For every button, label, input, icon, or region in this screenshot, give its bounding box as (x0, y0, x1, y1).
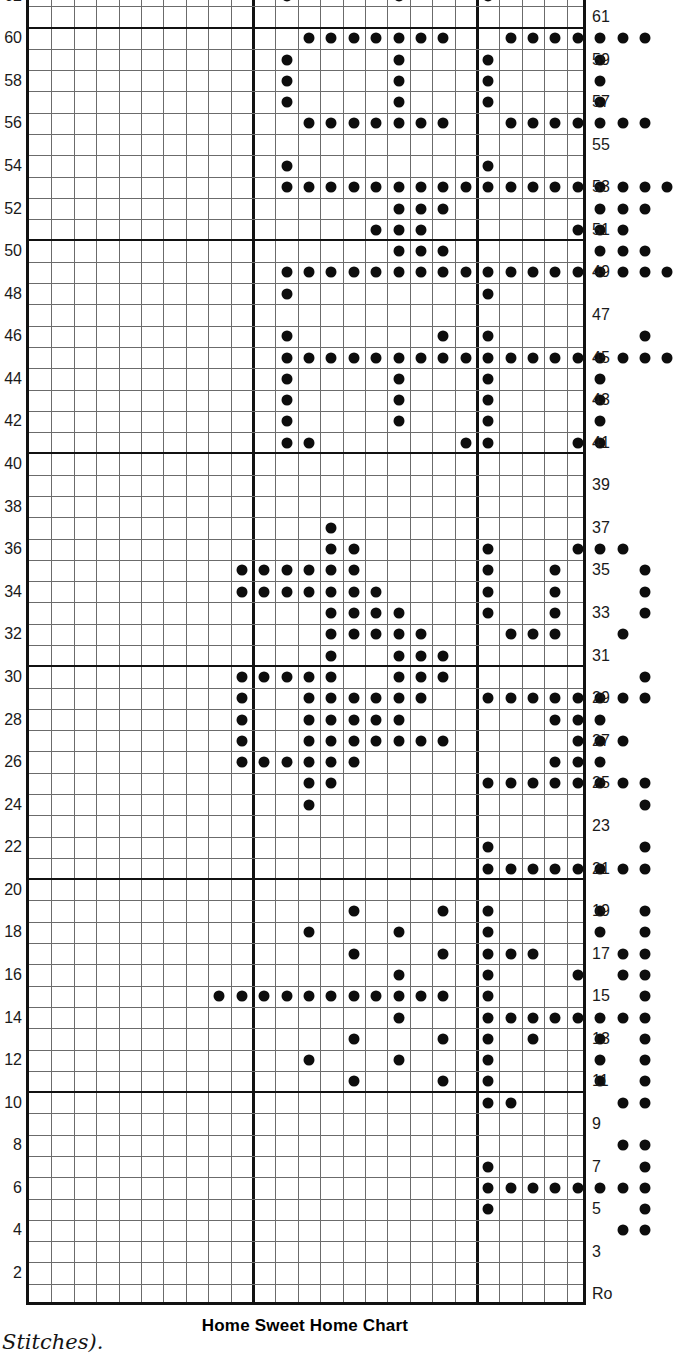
chart-cell-filled[interactable] (393, 650, 404, 661)
chart-cell-filled[interactable] (416, 693, 427, 704)
chart-cell-filled[interactable] (550, 565, 561, 576)
chart-cell-filled[interactable] (281, 352, 292, 363)
chart-cell-filled[interactable] (572, 224, 583, 235)
chart-cell-filled[interactable] (505, 33, 516, 44)
chart-cell-filled[interactable] (259, 757, 270, 768)
chart-cell-filled[interactable] (438, 352, 449, 363)
chart-cell-filled[interactable] (438, 671, 449, 682)
chart-cell-filled[interactable] (304, 182, 315, 193)
chart-cell-filled[interactable] (393, 735, 404, 746)
chart-cell-filled[interactable] (304, 735, 315, 746)
chart-cell-filled[interactable] (640, 671, 651, 682)
chart-cell-filled[interactable] (348, 565, 359, 576)
chart-cell-filled[interactable] (460, 437, 471, 448)
chart-cell-filled[interactable] (348, 991, 359, 1002)
chart-cell-filled[interactable] (259, 991, 270, 1002)
chart-cell-filled[interactable] (617, 246, 628, 257)
chart-cell-filled[interactable] (304, 118, 315, 129)
chart-cell-filled[interactable] (505, 267, 516, 278)
chart-cell-filled[interactable] (505, 1097, 516, 1108)
chart-cell-filled[interactable] (572, 437, 583, 448)
chart-cell-filled[interactable] (371, 267, 382, 278)
chart-cell-filled[interactable] (483, 906, 494, 917)
chart-cell-filled[interactable] (483, 0, 494, 1)
chart-cell-filled[interactable] (304, 778, 315, 789)
chart-cell-filled[interactable] (326, 757, 337, 768)
chart-cell-filled[interactable] (572, 1182, 583, 1193)
chart-cell-filled[interactable] (483, 373, 494, 384)
chart-cell-filled[interactable] (662, 182, 673, 193)
chart-cell-filled[interactable] (393, 629, 404, 640)
chart-cell-filled[interactable] (236, 586, 247, 597)
chart-cell-filled[interactable] (460, 182, 471, 193)
chart-cell-filled[interactable] (393, 33, 404, 44)
chart-cell-filled[interactable] (528, 1182, 539, 1193)
chart-cell-filled[interactable] (438, 1076, 449, 1087)
chart-cell-filled[interactable] (326, 522, 337, 533)
chart-cell-filled[interactable] (348, 544, 359, 555)
chart-cell-filled[interactable] (438, 246, 449, 257)
chart-cell-filled[interactable] (550, 352, 561, 363)
chart-cell-filled[interactable] (662, 267, 673, 278)
chart-cell-filled[interactable] (348, 182, 359, 193)
chart-cell-filled[interactable] (393, 395, 404, 406)
chart-cell-filled[interactable] (483, 778, 494, 789)
chart-cell-filled[interactable] (371, 33, 382, 44)
chart-cell-filled[interactable] (416, 650, 427, 661)
chart-cell-filled[interactable] (483, 970, 494, 981)
chart-cell-filled[interactable] (572, 693, 583, 704)
chart-cell-filled[interactable] (393, 991, 404, 1002)
chart-cell-filled[interactable] (348, 33, 359, 44)
chart-cell-filled[interactable] (326, 565, 337, 576)
chart-cell-filled[interactable] (393, 1055, 404, 1066)
chart-cell-filled[interactable] (393, 118, 404, 129)
chart-cell-filled[interactable] (617, 224, 628, 235)
chart-cell-filled[interactable] (640, 1140, 651, 1151)
chart-cell-filled[interactable] (438, 203, 449, 214)
chart-cell-filled[interactable] (326, 991, 337, 1002)
chart-cell-filled[interactable] (528, 1033, 539, 1044)
chart-cell-filled[interactable] (483, 1161, 494, 1172)
chart-cell-filled[interactable] (326, 352, 337, 363)
chart-cell-filled[interactable] (416, 991, 427, 1002)
chart-cell-filled[interactable] (550, 267, 561, 278)
chart-cell-filled[interactable] (640, 586, 651, 597)
chart-cell-filled[interactable] (214, 991, 225, 1002)
chart-cell-filled[interactable] (438, 267, 449, 278)
chart-cell-filled[interactable] (572, 1012, 583, 1023)
chart-cell-filled[interactable] (550, 629, 561, 640)
chart-cell-filled[interactable] (483, 1182, 494, 1193)
chart-cell-filled[interactable] (572, 352, 583, 363)
chart-cell-filled[interactable] (438, 948, 449, 959)
chart-cell-filled[interactable] (528, 1012, 539, 1023)
chart-cell-filled[interactable] (348, 1076, 359, 1087)
chart-cell-filled[interactable] (528, 693, 539, 704)
chart-cell-filled[interactable] (438, 182, 449, 193)
chart-cell-filled[interactable] (371, 991, 382, 1002)
chart-cell-filled[interactable] (393, 75, 404, 86)
chart-cell-filled[interactable] (595, 416, 606, 427)
chart-cell-filled[interactable] (550, 757, 561, 768)
chart-cell-filled[interactable] (640, 182, 651, 193)
chart-cell-filled[interactable] (483, 544, 494, 555)
chart-cell-filled[interactable] (640, 246, 651, 257)
chart-cell-filled[interactable] (505, 182, 516, 193)
chart-cell-filled[interactable] (640, 1033, 651, 1044)
chart-cell-filled[interactable] (640, 1076, 651, 1087)
chart-cell-filled[interactable] (505, 118, 516, 129)
chart-cell-filled[interactable] (326, 629, 337, 640)
chart-cell-filled[interactable] (617, 182, 628, 193)
chart-cell-filled[interactable] (236, 735, 247, 746)
chart-cell-filled[interactable] (393, 1012, 404, 1023)
chart-cell-filled[interactable] (483, 395, 494, 406)
chart-cell-filled[interactable] (640, 352, 651, 363)
chart-cell-filled[interactable] (326, 586, 337, 597)
chart-cell-filled[interactable] (393, 267, 404, 278)
chart-cell-filled[interactable] (640, 778, 651, 789)
chart-cell-filled[interactable] (640, 33, 651, 44)
chart-cell-filled[interactable] (304, 33, 315, 44)
chart-cell-filled[interactable] (281, 0, 292, 1)
chart-cell-filled[interactable] (505, 629, 516, 640)
chart-cell-filled[interactable] (326, 608, 337, 619)
chart-cell-filled[interactable] (281, 586, 292, 597)
